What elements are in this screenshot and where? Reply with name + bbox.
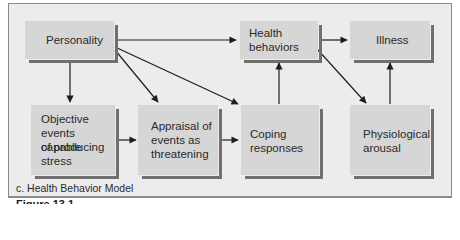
node-label-line: arousal xyxy=(363,141,401,155)
edge-personality-coping xyxy=(115,47,238,104)
diagram-caption: c. Health Behavior Model xyxy=(16,182,133,194)
node-label-line: Appraisal of xyxy=(151,119,212,133)
node-label-line: Objective xyxy=(41,112,89,126)
node-label-line: threatening xyxy=(151,147,209,161)
node-personality: Personality xyxy=(25,21,114,59)
figure-divider xyxy=(8,197,452,198)
node-label-line: Coping xyxy=(250,127,286,141)
node-label-line: stress xyxy=(41,154,72,168)
node-health-behaviors: Health behaviors xyxy=(240,21,318,59)
node-physiological-arousal: Physiological arousal xyxy=(350,105,430,175)
node-illness: Illness xyxy=(350,21,430,59)
node-label: Personality xyxy=(46,33,103,47)
edge-personality-appraisal xyxy=(115,50,158,102)
node-label: Illness xyxy=(376,33,409,47)
node-appraisal: Appraisal of events as threatening xyxy=(138,105,218,175)
node-label-line: of producing xyxy=(41,140,104,154)
node-label-line: behaviors xyxy=(249,40,299,54)
node-label-line: Physiological xyxy=(363,127,430,141)
node-coping-responses: Coping responses xyxy=(241,105,319,175)
node-objective-events: Objective events capable of producing st… xyxy=(31,105,115,175)
node-label-line: responses xyxy=(250,141,303,155)
node-label-line: events as xyxy=(151,133,200,147)
node-label-line: Health xyxy=(249,26,282,40)
figure-label: Figure 13.1 xyxy=(16,199,74,204)
